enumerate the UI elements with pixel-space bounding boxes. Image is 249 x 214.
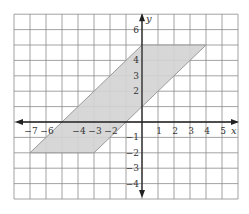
shaded-parallelogram <box>30 45 206 153</box>
x-tick-label: 1 <box>156 126 162 136</box>
x-axis-left-arrow-icon <box>15 119 23 125</box>
y-tick-label: 6 <box>133 25 139 35</box>
y-axis-label: y <box>145 13 152 24</box>
coordinate-plane: −7−6−4−3−212345 6432−1−2−3−4 x y <box>0 0 249 214</box>
x-tick-label: 2 <box>172 126 178 136</box>
y-axis-down-arrow-icon <box>139 190 145 198</box>
x-tick-label: −2 <box>104 126 117 136</box>
y-tick-label: −1 <box>126 132 139 142</box>
x-tick-label: −6 <box>40 126 54 136</box>
y-tick-label: 4 <box>133 55 139 65</box>
x-tick-label: 4 <box>204 126 210 136</box>
y-tick-label: 3 <box>133 71 139 81</box>
x-tick-label: 3 <box>188 126 194 136</box>
x-tick-label: −4 <box>72 126 86 136</box>
x-tick-label: −7 <box>24 126 38 136</box>
y-tick-label: 2 <box>133 86 139 96</box>
y-tick-label: −3 <box>126 163 140 173</box>
x-tick-label: −3 <box>88 126 102 136</box>
x-tick-label: 5 <box>220 126 226 136</box>
y-tick-label: −2 <box>126 148 139 158</box>
x-axis-label: x <box>231 125 237 136</box>
y-tick-label: −4 <box>126 179 140 189</box>
